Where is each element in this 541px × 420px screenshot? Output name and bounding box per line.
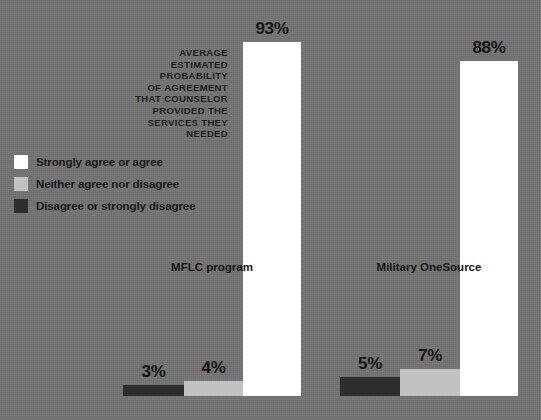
chart-container: AVERAGE ESTIMATED PROBABILITY OF AGREEME… [0, 0, 541, 420]
bar-value-label: 93% [243, 19, 301, 39]
bar-7pct [400, 369, 460, 396]
bar-value-label: 7% [400, 346, 460, 366]
chart-axis-title: AVERAGE ESTIMATED PROBABILITY OF AGREEME… [120, 47, 228, 140]
bar-value-label: 5% [340, 354, 400, 374]
bar-88pct [460, 61, 518, 396]
legend-swatch-strongly-agree [14, 155, 28, 169]
chart-legend: Strongly agree or agree Neither agree no… [14, 151, 214, 217]
bar-4pct [184, 381, 243, 396]
legend-item-strongly-agree: Strongly agree or agree [14, 151, 214, 173]
legend-label-strongly-agree: Strongly agree or agree [36, 156, 163, 168]
bar-value-label: 88% [460, 38, 518, 58]
bar-3pct [123, 385, 184, 396]
legend-item-neither: Neither agree nor disagree [14, 173, 214, 195]
bar-value-label: 4% [184, 358, 243, 378]
legend-label-neither: Neither agree nor disagree [36, 178, 179, 190]
category-label-mflc: MFLC program [112, 261, 312, 273]
bar-93pct [243, 42, 301, 396]
legend-swatch-neither [14, 177, 28, 191]
bar-5pct [340, 377, 400, 396]
category-label-military-onesource: Military OneSource [329, 261, 529, 273]
bar-value-label: 3% [123, 362, 184, 382]
legend-swatch-disagree [14, 199, 28, 213]
legend-label-disagree: Disagree or strongly disagree [36, 200, 195, 212]
legend-item-disagree: Disagree or strongly disagree [14, 195, 214, 217]
